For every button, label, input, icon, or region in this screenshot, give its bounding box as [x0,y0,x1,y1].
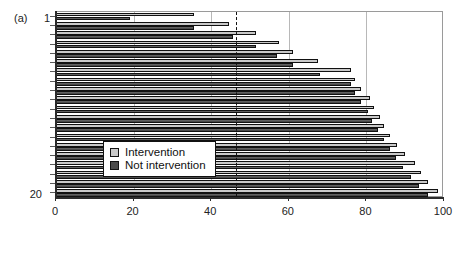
bar-not-intervention [56,35,233,39]
bar-group-row [56,179,442,188]
bar-group-row [56,31,442,40]
reference-line [236,12,237,196]
bar-group-row [56,12,442,21]
y-tick [50,109,55,110]
intervention-swatch-icon [110,148,119,157]
bar-not-intervention [56,119,372,123]
bar-group-row [56,21,442,30]
y-tick [50,34,55,35]
y-axis-bottom-label: 20 [20,188,42,200]
x-tick-20 [133,197,134,201]
bar-group-row [56,96,442,105]
not-intervention-swatch-icon [110,161,119,170]
bar-group-row [56,68,442,77]
bar-not-intervention [56,110,368,114]
y-tick [50,137,55,138]
y-axis-top-label: 1 [28,12,50,24]
x-tick-80 [365,197,366,201]
x-tick-100 [443,197,444,201]
y-axis-line [55,11,57,198]
bar-group-row [56,124,442,133]
bar-group-row [56,49,442,58]
bar-group-row [56,40,442,49]
y-tick [50,118,55,119]
legend-label-not-intervention: Not intervention [125,160,206,172]
y-tick [50,192,55,193]
bar-not-intervention [56,73,320,77]
panel-label: (a) [14,12,27,24]
x-tick-0 [55,197,56,201]
bar-not-intervention [56,100,361,104]
chart-legend: Intervention Not intervention [103,141,216,177]
bar-not-intervention [56,54,277,58]
y-tick [50,81,55,82]
legend-item-not-intervention: Not intervention [110,160,206,172]
bar-group-row [56,86,442,95]
y-tick [50,99,55,100]
bar-not-intervention [56,17,130,21]
x-tick-label-80: 80 [359,205,371,217]
y-tick [50,155,55,156]
y-tick [50,164,55,165]
bar-group-row [56,114,442,123]
x-tick-label-40: 40 [204,205,216,217]
bar-group-row [56,105,442,114]
y-tick [50,71,55,72]
chart-figure: (a) 1 20 020406080100 Intervention Not i… [0,0,469,254]
y-tick [50,90,55,91]
bar-group-row [56,77,442,86]
legend-label-intervention: Intervention [125,147,185,159]
bar-not-intervention [56,82,351,86]
bar-not-intervention [56,91,355,95]
y-tick [50,53,55,54]
y-tick [50,25,55,26]
x-tick-label-0: 0 [52,205,58,217]
bar-not-intervention [56,128,378,132]
bar-not-intervention [56,45,256,49]
x-tick-label-60: 60 [282,205,294,217]
bar-group-row [56,59,442,68]
y-tick [50,62,55,63]
x-tick-label-20: 20 [126,205,138,217]
y-tick [50,16,55,17]
y-tick [50,44,55,45]
x-axis-line [55,197,444,199]
y-tick [50,146,55,147]
y-tick [50,183,55,184]
bar-not-intervention [56,63,293,67]
x-tick-label-100: 100 [434,205,452,217]
legend-item-intervention: Intervention [110,147,206,159]
bar-not-intervention [56,26,194,30]
x-tick-40 [210,197,211,201]
y-tick [50,127,55,128]
x-tick-60 [288,197,289,201]
y-tick [50,174,55,175]
